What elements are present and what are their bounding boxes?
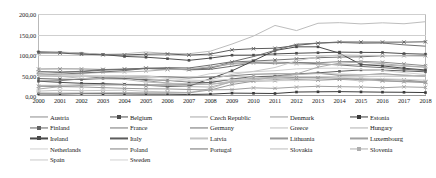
chart-legend: AustriaBelgiumCzech RepublicDenmarkEston… [30, 112, 430, 165]
legend-swatch-icon [270, 124, 288, 132]
data-point [424, 91, 427, 94]
data-point [188, 59, 191, 62]
data-point [59, 81, 62, 84]
legend-item-czech-republic[interactable]: Czech Republic [190, 113, 270, 121]
legend-swatch-icon [30, 134, 48, 142]
legend-item-france[interactable]: France [110, 124, 190, 132]
legend-item-sweden[interactable]: Sweden [110, 156, 190, 164]
data-point [274, 76, 276, 78]
legend-label: Poland [130, 146, 148, 153]
legend-item-lithuania[interactable]: Lithuania [270, 134, 350, 142]
x-tick-label: 2003 [97, 97, 109, 104]
x-tick-label: 2017 [398, 97, 410, 104]
x-tick-label: 2014 [333, 97, 345, 104]
x-tick-label: 2005 [140, 97, 152, 104]
legend-label: Latvia [210, 135, 226, 142]
data-point [338, 52, 341, 55]
data-point [210, 86, 212, 88]
y-tick-label: 150,00 [19, 31, 36, 38]
legend-swatch-icon [190, 145, 208, 153]
data-point [338, 90, 341, 93]
legend-swatch-icon [110, 134, 128, 142]
legend-label: Germany [210, 124, 234, 131]
legend-swatch-icon [350, 134, 368, 142]
legend-item-spain[interactable]: Spain [30, 156, 110, 164]
legend-swatch-icon [350, 145, 368, 153]
legend-label: Netherlands [50, 146, 81, 153]
legend-item-belgium[interactable]: Belgium [110, 113, 190, 121]
legend-label: Hungary [370, 124, 392, 131]
legend-row: NetherlandsPolandPortugalSlovakiaSloveni… [30, 144, 430, 155]
x-tick-label: 2008 [204, 97, 216, 104]
legend-item-germany[interactable]: Germany [190, 124, 270, 132]
data-point [231, 81, 233, 83]
data-point [252, 59, 255, 62]
data-point [317, 46, 320, 49]
legend-item-hungary[interactable]: Hungary [350, 124, 430, 132]
legend-item-slovakia[interactable]: Slovakia [270, 145, 350, 153]
data-point [145, 56, 148, 59]
legend-item-luxembourg[interactable]: Luxembourg [350, 134, 430, 142]
legend-row: SpainSweden [30, 154, 430, 165]
data-point [59, 84, 61, 86]
series-layer [38, 14, 426, 96]
legend-swatch-icon [270, 145, 288, 153]
legend-item-portugal[interactable]: Portugal [190, 145, 270, 153]
legend-item-ireland[interactable]: Ireland [30, 134, 110, 142]
legend-item-poland[interactable]: Poland [110, 145, 190, 153]
data-point [360, 91, 363, 94]
legend-swatch-icon [190, 134, 208, 142]
legend-label: Luxembourg [370, 135, 403, 142]
legend-swatch-icon [350, 124, 368, 132]
data-point [81, 84, 83, 86]
legend-item-austria[interactable]: Austria [30, 113, 110, 121]
data-point [166, 57, 169, 60]
legend-item-latvia[interactable]: Latvia [190, 134, 270, 142]
axis-baseline [38, 95, 426, 96]
y-tick-label: 100,00 [19, 52, 36, 59]
legend-label: Estonia [370, 114, 389, 121]
x-tick-label: 2015 [355, 97, 367, 104]
legend-row: AustriaBelgiumCzech RepublicDenmarkEston… [30, 112, 430, 123]
x-tick-label: 2004 [118, 97, 130, 104]
y-tick-label: 200,00 [19, 11, 36, 18]
x-tick-label: 2010 [247, 97, 259, 104]
x-tick-label: 2006 [161, 97, 173, 104]
legend-swatch-icon [190, 124, 208, 132]
x-tick-label: 2009 [226, 97, 238, 104]
legend-row: IrelandItalyLatviaLithuaniaLuxembourg [30, 133, 430, 144]
legend-swatch-icon [30, 113, 48, 121]
x-tick-label: 2012 [290, 97, 302, 104]
legend-item-finland[interactable]: Finland [30, 124, 110, 132]
data-point [37, 77, 40, 80]
x-tick-label: 2013 [312, 97, 324, 104]
legend-label: Greece [290, 124, 308, 131]
legend-swatch-icon [350, 113, 368, 121]
legend-swatch-icon [110, 113, 128, 121]
data-point [403, 70, 406, 73]
legend-item-italy[interactable]: Italy [110, 134, 190, 142]
legend-item-denmark[interactable]: Denmark [270, 113, 350, 121]
data-point [102, 84, 104, 86]
legend-item-estonia[interactable]: Estonia [350, 113, 430, 121]
data-point [403, 91, 406, 94]
legend-item-netherlands[interactable]: Netherlands [30, 145, 110, 153]
data-point [188, 86, 190, 88]
legend-label: Slovenia [370, 146, 392, 153]
legend-swatch-icon [110, 156, 128, 164]
legend-label: Italy [130, 135, 142, 142]
y-tick-label: 50,00 [22, 72, 36, 79]
legend-swatch-icon [30, 124, 48, 132]
legend-swatch-icon [270, 113, 288, 121]
data-point [317, 91, 320, 94]
y-axis: 0,0050,00100,00150,00200,00 [0, 14, 36, 96]
legend-label: Spain [50, 156, 65, 163]
legend-item-slovenia[interactable]: Slovenia [350, 145, 430, 153]
legend-swatch-icon [270, 134, 288, 142]
legend-label: France [130, 124, 147, 131]
data-point [209, 81, 212, 84]
legend-item-greece[interactable]: Greece [270, 124, 350, 132]
legend-label: Sweden [130, 156, 150, 163]
data-point [59, 78, 62, 81]
legend-label: Slovakia [290, 146, 312, 153]
